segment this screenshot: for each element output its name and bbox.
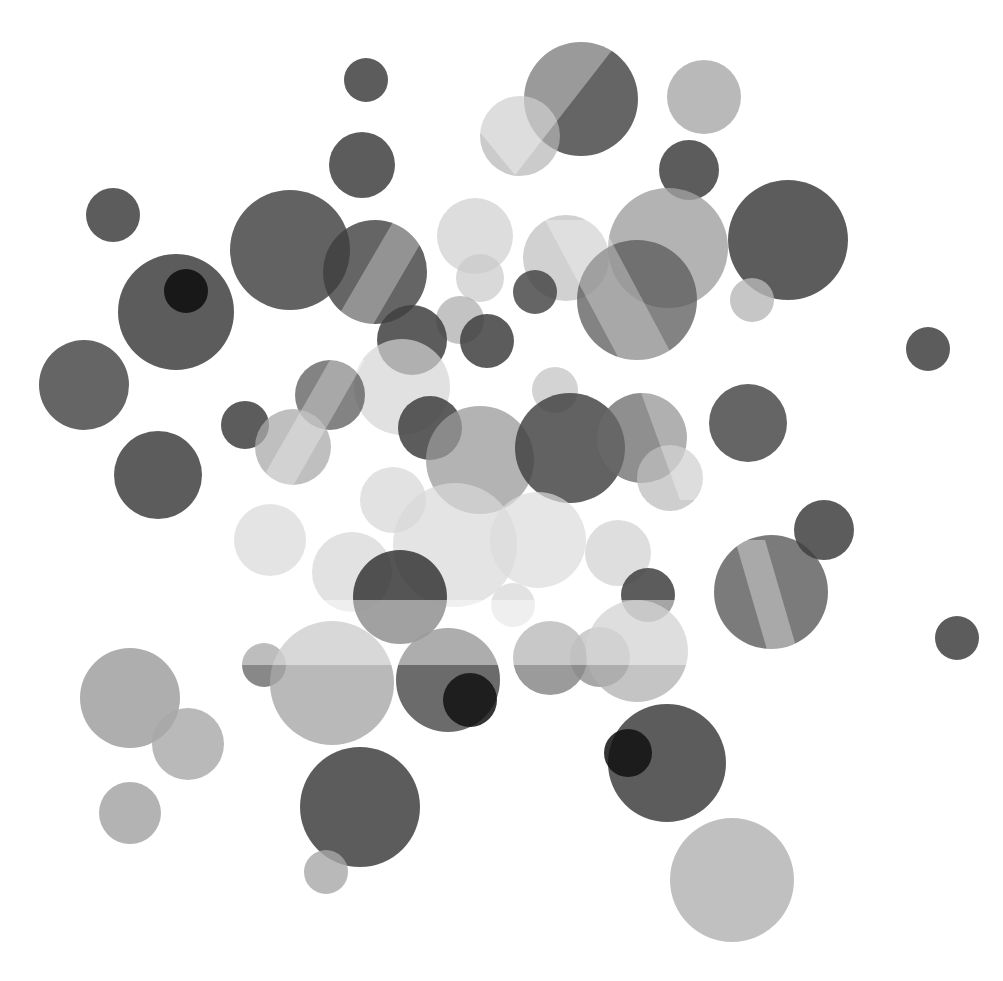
circle-shape [667, 60, 741, 134]
circle-shape [604, 729, 652, 777]
overlay-band [240, 600, 690, 665]
circle-shape [513, 270, 557, 314]
circle-shape [709, 384, 787, 462]
circle-shape [443, 673, 497, 727]
circle-shape [300, 747, 420, 867]
circle-shape [456, 254, 504, 302]
circle-shape [794, 500, 854, 560]
circle-shape [39, 340, 129, 430]
circle-shape [304, 850, 348, 894]
circle-shape [99, 782, 161, 844]
circle-shape [234, 504, 306, 576]
circle-shape [329, 132, 395, 198]
circle-shape [114, 431, 202, 519]
circle-shape [490, 492, 586, 588]
circle-shape [935, 616, 979, 660]
circle-shape [344, 58, 388, 102]
circle-shape [118, 254, 234, 370]
abstract-circle-artwork [0, 0, 1003, 981]
circle-shape [730, 278, 774, 322]
circle-shape [670, 818, 794, 942]
circle-shape [906, 327, 950, 371]
circle-shape [460, 314, 514, 368]
circle-shape [164, 269, 208, 313]
circle-shape [152, 708, 224, 780]
circle-shape [86, 188, 140, 242]
